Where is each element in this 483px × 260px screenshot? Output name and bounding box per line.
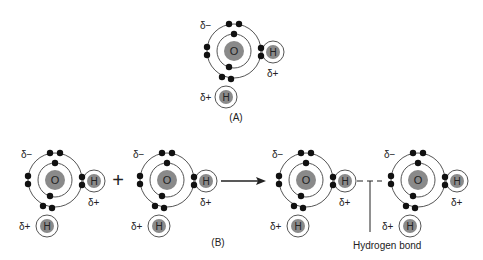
charge-oxygen: δ− — [133, 149, 145, 160]
reaction-arrow — [221, 177, 266, 185]
charge-hydrogen-right: δ+ — [339, 197, 351, 208]
charge-oxygen: δ− — [200, 20, 212, 31]
hydrogen-right-symbol: H — [453, 176, 460, 187]
charge-oxygen: δ− — [272, 149, 284, 160]
oxygen-symbol: O — [302, 174, 311, 186]
panel-a: O H H δ− δ+ δ+ (A) — [200, 20, 284, 123]
hydrogen-bottom-symbol: H — [43, 221, 50, 232]
oxygen-symbol: O — [230, 45, 239, 57]
water-molecule-a: O H H δ− δ+ δ+ — [200, 20, 284, 108]
charge-hydrogen-bottom: δ+ — [382, 221, 394, 232]
charge-hydrogen-bottom: δ+ — [19, 221, 31, 232]
hydrogen-right-symbol: H — [90, 176, 97, 187]
hydrogen-bottom-symbol: H — [222, 92, 229, 103]
hydrogen-bottom-symbol: H — [294, 221, 301, 232]
charge-hydrogen-bottom: δ+ — [131, 221, 143, 232]
oxygen-symbol: O — [163, 174, 172, 186]
charge-hydrogen-right: δ+ — [200, 197, 212, 208]
charge-hydrogen-right: δ+ — [267, 68, 279, 79]
hydrogen-bottom-symbol: H — [406, 221, 413, 232]
charge-hydrogen-right: δ+ — [451, 197, 463, 208]
hydrogen-right-symbol: H — [269, 47, 276, 58]
charge-hydrogen-bottom: δ+ — [200, 92, 212, 103]
plus-sign: + — [112, 169, 124, 191]
hydrogen-right-symbol: H — [341, 176, 348, 187]
water-molecule-b3: O H H δ− δ+ δ+ — [270, 149, 356, 237]
oxygen-symbol: O — [51, 174, 60, 186]
hydrogen-bond-label: Hydrogen bond — [353, 240, 421, 251]
panel-b-label: (B) — [211, 237, 224, 248]
hydrogen-bottom-symbol: H — [155, 221, 162, 232]
water-hydrogen-bond-diagram: O H H δ− δ+ δ+ (A) O H H δ− δ+ δ+ + O H … — [0, 0, 483, 260]
water-molecule-b4: O H H δ− δ+ δ+ — [382, 149, 468, 237]
charge-hydrogen-bottom: δ+ — [270, 221, 282, 232]
charge-hydrogen-right: δ+ — [88, 197, 100, 208]
oxygen-symbol: O — [414, 174, 423, 186]
water-molecule-b1: O H H δ− δ+ δ+ — [19, 149, 105, 237]
panel-b: O H H δ− δ+ δ+ + O H H δ− δ+ δ+ O H — [19, 149, 468, 251]
panel-a-label: (A) — [229, 112, 242, 123]
hydrogen-right-symbol: H — [202, 176, 209, 187]
charge-oxygen: δ− — [384, 149, 396, 160]
hydrogen-bond — [357, 181, 382, 232]
charge-oxygen: δ− — [21, 149, 33, 160]
water-molecule-b2: O H H δ− δ+ δ+ — [131, 149, 217, 237]
